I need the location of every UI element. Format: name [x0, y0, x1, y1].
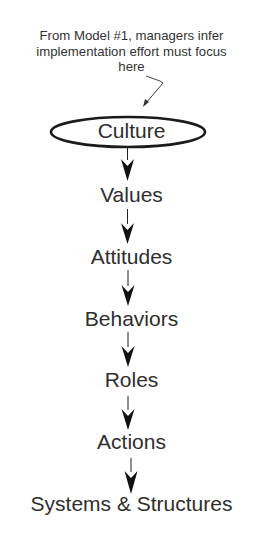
- node-values: Values: [0, 183, 263, 207]
- annotation-text: From Model #1, managers infer implementa…: [0, 28, 263, 75]
- arrow-behaviors-to-roles: [122, 332, 135, 367]
- node-attitudes: Attitudes: [0, 245, 263, 269]
- arrow-roles-to-actions: [122, 396, 135, 430]
- annotation-line-2: implementation effort must focus: [0, 44, 263, 60]
- arrow-culture-to-values: [121, 147, 134, 181]
- node-culture: Culture: [0, 119, 263, 143]
- node-systems-structures: Systems & Structures: [0, 492, 263, 516]
- arrow-attitudes-to-behaviors: [122, 270, 135, 306]
- node-behaviors: Behaviors: [0, 307, 263, 331]
- annotation-line-3: here: [0, 59, 263, 75]
- arrow-actions-to-systems: [125, 458, 138, 494]
- diagram-graphics: [0, 0, 263, 543]
- node-roles: Roles: [0, 368, 263, 392]
- annotation-pointer-icon: [143, 76, 163, 107]
- node-actions: Actions: [0, 430, 263, 454]
- arrow-values-to-attitudes: [121, 209, 134, 244]
- annotation-line-1: From Model #1, managers infer: [0, 28, 263, 44]
